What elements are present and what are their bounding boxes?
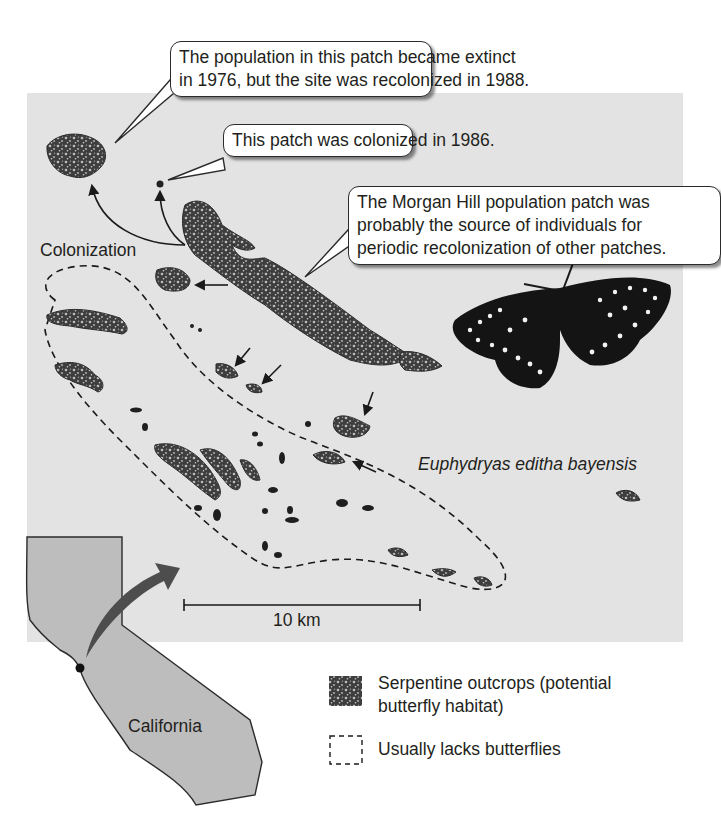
butterfly-illustration (453, 250, 671, 388)
callout-extinct-line2: in 1976, but the site was recolonized in… (179, 69, 423, 92)
colonization-arrow-2 (160, 192, 185, 245)
morgan-hill-tail-patch (399, 352, 442, 372)
legend-item-serpentine: Serpentine outcrops (potential butterfly… (378, 672, 611, 718)
callout-extinct-line1: The population in this patch became exti… (179, 46, 423, 69)
legend-serpentine-swatch (329, 676, 362, 706)
patch-west (156, 268, 190, 291)
species-label: Euphydryas editha bayensis (418, 454, 637, 475)
colonized-1986-patch (157, 181, 164, 188)
colonization-arrow-1 (92, 186, 185, 245)
patch-far-east (616, 490, 640, 501)
callout-morgan-line3: periodic recolonization of other patches… (357, 237, 712, 260)
legend-serpentine-line1: Serpentine outcrops (potential (378, 672, 611, 695)
callout-morgan-line2: probably the source of individuals for (357, 214, 712, 237)
legend-dashed-swatch (330, 736, 362, 764)
callout-extinct-recolonized: The population in this patch became exti… (170, 41, 432, 97)
study-site-marker (76, 664, 85, 673)
recolonized-patch (47, 134, 106, 177)
callout-morgan-line1: The Morgan Hill population patch was (357, 191, 712, 214)
callout-colonized-1986: This patch was colonized in 1986. (223, 124, 413, 157)
legend-lacks-line1: Usually lacks butterflies (378, 738, 561, 761)
callout-morgan-hill: The Morgan Hill population patch was pro… (348, 186, 721, 265)
legend-serpentine-line2: butterfly habitat) (378, 695, 611, 718)
legend-item-lacks-butterflies: Usually lacks butterflies (378, 738, 561, 761)
callout-colonized-text: This patch was colonized in 1986. (232, 129, 404, 152)
colonization-label: Colonization (40, 240, 136, 261)
california-map (27, 537, 262, 805)
california-label: California (128, 716, 202, 737)
scale-bar-label: 10 km (273, 610, 321, 631)
